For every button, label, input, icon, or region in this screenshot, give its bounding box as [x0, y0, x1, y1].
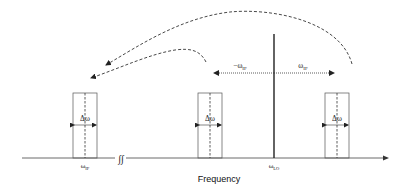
- upper-sideband: Δω: [325, 93, 349, 158]
- if-band: Δω: [73, 93, 97, 158]
- axis-title: Frequency: [198, 174, 241, 184]
- lower-sideband-width-label: Δω: [205, 114, 215, 123]
- upper-to-if-curve: [106, 11, 352, 65]
- upper-sideband-width-label: Δω: [332, 114, 342, 123]
- axis-break-symbol: ∫∫: [117, 153, 125, 165]
- lo-frequency-label: ωLO: [269, 162, 280, 171]
- axis-arrowhead-icon: [383, 156, 389, 161]
- frequency-mixing-diagram: ∫∫ Δω Δω Δω −ωIF ωIF ωIF ωLO Frequency: [0, 0, 412, 192]
- positive-offset-label: ωIF: [298, 61, 308, 71]
- lower-sideband: Δω: [198, 93, 222, 158]
- if-band-width-label: Δω: [80, 114, 90, 123]
- negative-offset-label: −ωIF: [233, 61, 247, 71]
- if-frequency-label: ωIF: [81, 162, 90, 171]
